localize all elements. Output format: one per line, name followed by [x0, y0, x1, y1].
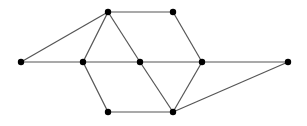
node-E	[137, 59, 143, 65]
edge-D-H	[83, 62, 108, 112]
edge-B-E	[108, 12, 140, 62]
edge-F-I	[173, 62, 202, 112]
node-H	[105, 109, 111, 115]
edge-E-I	[140, 62, 173, 112]
graph-diagram	[0, 0, 307, 126]
edge-I-G	[173, 62, 288, 112]
node-B	[105, 9, 111, 15]
graph-edges	[21, 12, 288, 112]
node-F	[199, 59, 205, 65]
node-A	[18, 59, 24, 65]
node-D	[80, 59, 86, 65]
node-G	[285, 59, 291, 65]
edge-C-F	[173, 12, 202, 62]
node-I	[170, 109, 176, 115]
node-C	[170, 9, 176, 15]
